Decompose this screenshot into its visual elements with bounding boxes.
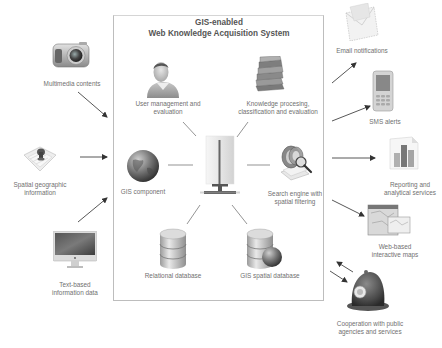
- database-icon: [158, 228, 188, 270]
- arrow-to-cooperation: [330, 271, 347, 282]
- books-icon: [252, 56, 288, 92]
- monitor-icon: [53, 231, 97, 271]
- component-label-relational-db: Relational database: [135, 272, 211, 280]
- envelope-icon: [340, 3, 380, 41]
- input-label-spatial: Spatial geographic information: [5, 181, 75, 197]
- server-icon: [200, 130, 240, 202]
- output-label-sms: SMS alerts: [360, 118, 410, 126]
- search-engine-icon: [275, 144, 315, 182]
- map-pin-icon: [20, 141, 60, 175]
- map-icon: [366, 203, 412, 237]
- output-label-maps: Web-based interactive maps: [360, 243, 430, 259]
- police-helmet-icon: [346, 268, 390, 312]
- component-label-search: Search engine with spatial filtering: [260, 190, 330, 206]
- component-label-knowledge: Knowledge procesing, classification and …: [228, 100, 328, 116]
- arrow-maps: [332, 200, 364, 216]
- user-icon: [145, 60, 181, 98]
- component-label-gis: GIS component: [113, 188, 173, 196]
- component-label-user-mgmt: User management and evaluation: [128, 100, 208, 116]
- mobile-phone-icon: [372, 70, 394, 112]
- output-label-reporting: Reporting and analytical services: [375, 181, 442, 197]
- output-label-cooperation: Cooperation with public agencies and ser…: [325, 320, 415, 336]
- arrow-text: [78, 198, 107, 222]
- arrow-email: [332, 63, 356, 83]
- globe-icon: [125, 148, 161, 184]
- output-label-email: Email notifications: [327, 47, 397, 55]
- spatial-database-icon: [245, 228, 285, 270]
- arrow-multimedia: [78, 92, 107, 117]
- input-label-text: Text-based information data: [35, 281, 115, 297]
- bar-chart-icon: [388, 135, 420, 171]
- camera-icon: [49, 40, 95, 70]
- input-label-multimedia: Multimedia contents: [32, 80, 112, 88]
- component-label-gis-db: GIS spatial database: [235, 272, 305, 280]
